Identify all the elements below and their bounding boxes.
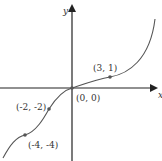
function-graph: x y (3, 1) (0, 0) (-2, -2) (-4, -4) — [0, 0, 162, 161]
x-axis-label: x — [158, 90, 162, 100]
point-neg4-neg4 — [23, 133, 27, 137]
label-3-1: (3, 1) — [93, 63, 117, 73]
label-neg4-neg4: (-4, -4) — [28, 140, 58, 150]
label-origin: (0, 0) — [76, 93, 100, 103]
y-axis-label: y — [62, 6, 69, 16]
label-neg2-neg2: (-2, -2) — [16, 102, 46, 112]
point-3-1 — [108, 75, 112, 79]
point-origin — [70, 86, 74, 90]
point-neg2-neg2 — [47, 107, 51, 111]
